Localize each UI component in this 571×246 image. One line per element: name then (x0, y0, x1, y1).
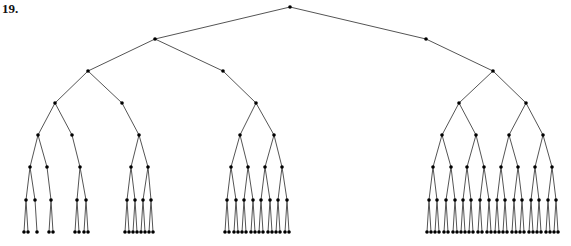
tree-node (49, 198, 53, 202)
tree-node (146, 165, 150, 169)
tree-node (238, 133, 242, 137)
tree-edge (437, 200, 439, 232)
tree-leaf (240, 230, 244, 234)
tree-edge (270, 200, 272, 232)
tree-leaf (223, 230, 227, 234)
tree-leaf (485, 230, 489, 234)
tree-leaf (522, 230, 526, 234)
tree-leaf (548, 230, 552, 234)
tree-edge (501, 135, 509, 167)
tree-edge (80, 167, 86, 200)
tree-leaf (497, 230, 501, 234)
tree-edge (131, 135, 139, 167)
tree-edge (548, 200, 550, 232)
tree-edge (282, 167, 287, 200)
tree-edge (505, 200, 507, 232)
tree-leaf (463, 230, 467, 234)
tree-leaf (493, 230, 497, 234)
tree-node (221, 69, 225, 73)
tree-edge (122, 103, 139, 135)
tree-edge (467, 135, 476, 167)
tree-edge (461, 200, 463, 232)
tree-edge (539, 200, 541, 232)
tree-edge (248, 167, 253, 200)
tree-node (495, 198, 499, 202)
tree-edge (476, 135, 484, 167)
tree-edge (535, 135, 543, 167)
tree-edge (125, 200, 127, 232)
tree-node (465, 165, 469, 169)
tree-edge (509, 135, 518, 167)
tree-leaf (232, 230, 236, 234)
tree-leaf (278, 230, 282, 234)
tree-leaf (451, 230, 455, 234)
tree-edge (435, 200, 437, 232)
tree-node (478, 198, 482, 202)
tree-leaf (480, 230, 484, 234)
tree-node (272, 133, 276, 137)
tree-edge (251, 200, 253, 232)
tree-edge (55, 103, 72, 135)
tree-edge (261, 167, 265, 200)
tree-node (75, 198, 79, 202)
tree-edge (139, 135, 148, 167)
tree-leaf (123, 230, 127, 234)
tree-edge (149, 200, 151, 232)
tree-leaf (86, 230, 90, 234)
tree-edge (514, 200, 516, 232)
tree-edge (155, 7, 290, 39)
tree-leaf (518, 230, 522, 234)
tree-node (125, 198, 129, 202)
tree-node (524, 101, 528, 105)
tree-leaf (227, 230, 231, 234)
tree-edge (467, 167, 471, 200)
tree-edge (287, 200, 289, 232)
tree-node (53, 101, 57, 105)
tree-edge (38, 135, 47, 167)
tree-node (435, 198, 439, 202)
tree-node (225, 198, 229, 202)
tree-edge (155, 39, 223, 71)
tree-node (537, 198, 541, 202)
tree-node (550, 165, 554, 169)
tree-edge (231, 135, 240, 167)
tree-leaf (147, 230, 151, 234)
binary-tree-diagram (0, 0, 571, 246)
tree-edge (285, 200, 287, 232)
tree-node (141, 198, 145, 202)
tree-edge (535, 167, 539, 200)
tree-edge (503, 200, 505, 232)
tree-node (268, 198, 272, 202)
tree-node (263, 165, 267, 169)
tree-nodes (22, 5, 560, 234)
tree-node (133, 198, 137, 202)
tree-edge (47, 167, 51, 200)
tree-leaf (236, 230, 240, 234)
tree-leaf (253, 230, 257, 234)
tree-edge (451, 167, 455, 200)
tree-leaf (455, 230, 459, 234)
tree-leaf (514, 230, 518, 234)
tree-leaf (51, 230, 55, 234)
tree-leaf (476, 230, 480, 234)
tree-edge (556, 200, 558, 232)
tree-leaf (127, 230, 131, 234)
tree-leaf (283, 230, 287, 234)
tree-edge (274, 135, 282, 167)
tree-edge (546, 200, 548, 232)
tree-edge (278, 167, 282, 200)
tree-edge (290, 7, 426, 39)
tree-edge (256, 103, 274, 135)
tree-edge (442, 135, 451, 167)
tree-node (285, 198, 289, 202)
tree-edge (26, 200, 28, 232)
tree-edge (480, 167, 484, 200)
tree-edge (552, 167, 556, 200)
tree-edge (489, 200, 491, 232)
tree-edge (433, 135, 442, 167)
tree-node (541, 133, 545, 137)
tree-node (512, 198, 516, 202)
tree-edge (225, 200, 227, 232)
tree-edge (522, 200, 524, 232)
tree-node (24, 198, 28, 202)
